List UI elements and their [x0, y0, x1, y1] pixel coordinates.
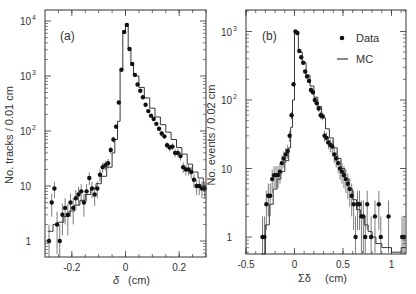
- svg-text:-0.2: -0.2: [63, 262, 81, 273]
- svg-text:10: 10: [20, 181, 32, 192]
- panel-b-axis-ticks: -0.500.51110102103: [221, 10, 406, 270]
- panel-b-mc-histogram: [262, 33, 407, 254]
- legend-data-label: Data: [356, 32, 380, 44]
- svg-text:10: 10: [20, 126, 32, 137]
- legend-mc-label: MC: [356, 53, 373, 65]
- panel-b-xlabel-symbol: Σδ: [298, 272, 311, 284]
- svg-text:3: 3: [233, 25, 237, 32]
- panel-b-xlabel-unit: (cm): [325, 272, 347, 284]
- panel-a-xlabel-unit: (cm): [128, 274, 150, 286]
- svg-text:1: 1: [389, 259, 395, 270]
- svg-text:10: 10: [20, 71, 32, 82]
- panel-b-label: (b): [262, 29, 277, 43]
- panel-a-frame: [45, 10, 206, 257]
- panel-a-data-points: [47, 23, 207, 257]
- svg-text:2: 2: [233, 93, 237, 100]
- legend-data-marker: [340, 36, 345, 41]
- figure: -0.200.2110102103104 (a) No. tracks / 0.…: [0, 0, 416, 294]
- svg-text:10: 10: [221, 27, 233, 38]
- panel-a-label: (a): [60, 29, 75, 43]
- svg-text:0.5: 0.5: [336, 259, 350, 270]
- panel-a-xlabel-symbol: δ: [113, 274, 120, 286]
- svg-text:-0.5: -0.5: [237, 259, 255, 270]
- panel-b-ylabel: No. events / 0.02 cm: [205, 85, 217, 186]
- svg-text:1: 1: [25, 236, 31, 247]
- svg-text:10: 10: [221, 164, 233, 175]
- svg-text:10: 10: [221, 95, 233, 106]
- panel-a: -0.200.2110102103104 (a) No. tracks / 0.…: [3, 10, 207, 286]
- svg-text:1: 1: [226, 232, 232, 243]
- svg-text:0: 0: [123, 262, 129, 273]
- svg-text:0.2: 0.2: [172, 262, 186, 273]
- panel-a-mc-histogram: [48, 26, 206, 232]
- svg-text:3: 3: [32, 69, 36, 76]
- panel-b: -0.500.51110102103 (b) Data MC No. event…: [205, 10, 406, 284]
- panel-b-frame: [246, 10, 406, 254]
- svg-text:4: 4: [32, 14, 36, 21]
- svg-text:0: 0: [292, 259, 298, 270]
- svg-text:10: 10: [20, 16, 32, 27]
- panel-a-ylabel: No. tracks / 0.01 cm: [3, 86, 15, 184]
- svg-text:2: 2: [32, 124, 36, 131]
